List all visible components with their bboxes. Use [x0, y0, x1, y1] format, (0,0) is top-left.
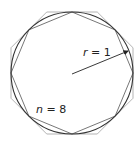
sides-value: = 8 [43, 103, 66, 116]
radius-label: r = 1 [83, 46, 111, 59]
unit-circle [11, 12, 133, 134]
circumscribed-octagon [11, 12, 133, 134]
inscribed-octagon [11, 12, 133, 134]
sides-label: n = 8 [36, 103, 66, 116]
radius-value: = 1 [88, 46, 111, 59]
sides-var: n [36, 103, 43, 116]
polygon-approximation-diagram: r = 1 n = 8 [0, 0, 140, 144]
